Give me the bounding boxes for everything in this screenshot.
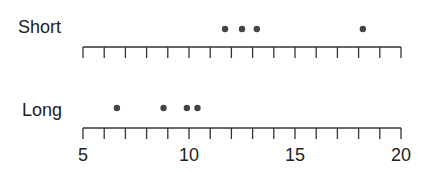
data-point [194,105,200,111]
x-tick-label-15: 15 [285,146,305,164]
data-point [222,26,228,32]
strip-chart: Short Long 5 10 15 20 [0,0,426,180]
axis-short [83,47,401,58]
x-tick-label-20: 20 [391,146,411,164]
data-point [239,26,245,32]
plot-area [0,0,426,180]
x-tick-label-5: 5 [78,146,88,164]
axis-long [83,128,401,139]
data-point [160,105,166,111]
data-point [254,26,260,32]
x-tick-label-10: 10 [179,146,199,164]
data-point [184,105,190,111]
data-point [360,26,366,32]
data-point [114,105,120,111]
